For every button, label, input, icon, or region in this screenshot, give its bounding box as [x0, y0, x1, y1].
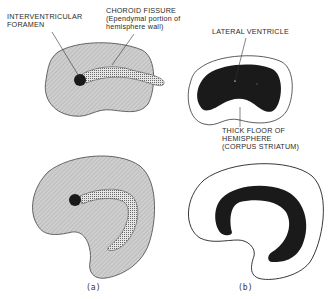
interventricular-foramen-dot-late: [69, 194, 81, 206]
label-interventricular-foramen: INTERVENTRICULAR FORAMEN: [7, 13, 82, 29]
panel-b-early-hemisphere: [188, 38, 292, 127]
label-lateral-ventricle: LATERAL VENTRICLE: [212, 28, 289, 36]
label-line: (CORPUS STRIATUM): [222, 143, 299, 151]
label-line: FORAMEN: [7, 21, 82, 29]
label-choroid-fissure: CHOROID FISSURE (Ependymal portion of he…: [106, 7, 181, 31]
label-line: hemisphere wall): [106, 23, 181, 31]
brain-hemisphere-diagram: INTERVENTRICULAR FORAMEN CHOROID FISSURE…: [0, 0, 332, 299]
ventricle-speck: [256, 83, 257, 84]
panel-a-late-hemisphere: [33, 156, 155, 278]
label-thick-floor: THICK FLOOR OF HEMISPHERE (CORPUS STRIAT…: [222, 127, 299, 151]
panel-b-late-hemisphere: [188, 164, 323, 280]
interventricular-foramen-dot-early: [74, 74, 86, 86]
caption-panel-a: (a): [86, 283, 100, 292]
caption-panel-b: (b): [238, 283, 252, 292]
label-line: LATERAL VENTRICLE: [212, 28, 289, 36]
panel-a-early-hemisphere: [45, 32, 164, 116]
